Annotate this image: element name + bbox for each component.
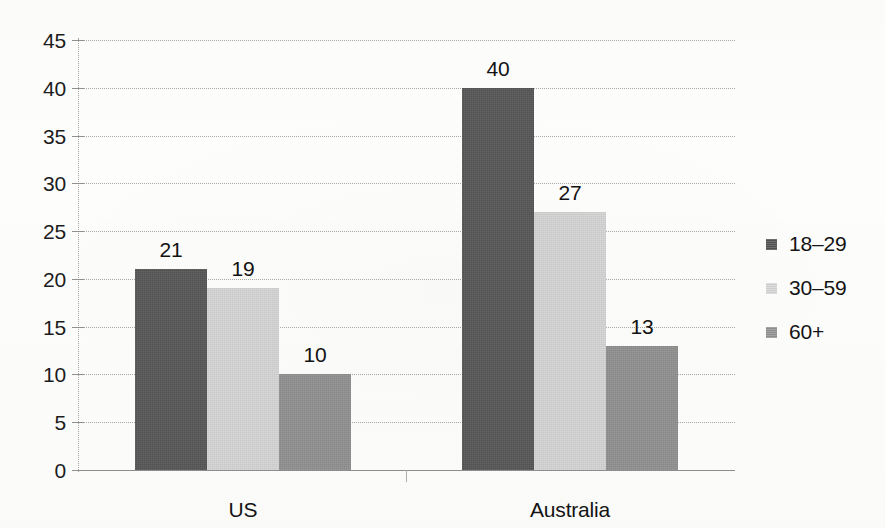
bar-value-label: 21: [135, 239, 207, 260]
y-axis-label-45: 45: [26, 30, 66, 51]
bar-value-label: 10: [279, 344, 351, 365]
bar-us-18-29: [135, 269, 207, 470]
legend-swatch-icon: [766, 283, 777, 294]
y-axis-tick-25: [72, 231, 84, 232]
bar-australia-30-59: [534, 212, 606, 470]
y-axis-label-25: 25: [26, 221, 66, 242]
chart-figure: 051015202530354045 211910402713 USAustra…: [0, 0, 885, 528]
legend-item-60+[interactable]: 60+: [766, 310, 878, 354]
y-axis-tick-10: [72, 374, 84, 375]
bar-australia-18-29: [462, 88, 534, 470]
x-axis-label-australia: Australia: [470, 498, 670, 522]
y-axis-tick-45: [72, 40, 84, 41]
y-axis-label-40: 40: [26, 77, 66, 98]
legend-label: 30–59: [789, 276, 846, 300]
chart-legend: 18–2930–5960+: [766, 222, 878, 354]
gridline-25: [78, 231, 735, 232]
gridline-40: [78, 88, 735, 89]
legend-label: 18–29: [789, 232, 846, 256]
bar-value-label: 27: [534, 182, 606, 203]
y-axis-label-20: 20: [26, 268, 66, 289]
y-axis-tick-35: [72, 136, 84, 137]
legend-swatch-icon: [766, 239, 777, 250]
category-divider-tick: [406, 470, 407, 482]
bar-us-60+: [279, 374, 351, 470]
x-axis-label-us: US: [143, 498, 343, 522]
y-axis-tick-labels: 051015202530354045: [14, 0, 66, 528]
y-axis-tick-40: [72, 88, 84, 89]
y-axis-tick-20: [72, 279, 84, 280]
y-axis-tick-15: [72, 327, 84, 328]
bar-value-label: 13: [606, 316, 678, 337]
legend-item-30-59[interactable]: 30–59: [766, 266, 878, 310]
gridline-30: [78, 183, 735, 184]
bar-value-label: 19: [207, 258, 279, 279]
y-axis-label-30: 30: [26, 173, 66, 194]
y-axis-label-0: 0: [26, 460, 66, 481]
gridline-45: [78, 40, 735, 41]
y-axis-tick-30: [72, 183, 84, 184]
gridline-35: [78, 136, 735, 137]
legend-label: 60+: [789, 320, 824, 344]
plot-area: 211910402713: [78, 40, 735, 470]
y-axis-tick-0: [72, 470, 84, 471]
y-axis-label-10: 10: [26, 364, 66, 385]
legend-item-18-29[interactable]: 18–29: [766, 222, 878, 266]
bar-us-30-59: [207, 288, 279, 470]
y-axis-tick-5: [72, 422, 84, 423]
y-axis-label-5: 5: [26, 412, 66, 433]
y-axis-label-35: 35: [26, 125, 66, 146]
legend-swatch-icon: [766, 327, 777, 338]
bar-australia-60+: [606, 346, 678, 470]
bar-value-label: 40: [462, 58, 534, 79]
y-axis-label-15: 15: [26, 316, 66, 337]
